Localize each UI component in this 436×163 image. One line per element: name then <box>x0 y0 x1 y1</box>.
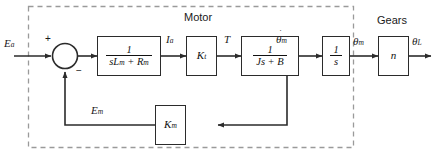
armature-numerator: 1 <box>106 44 152 55</box>
current-sub: a <box>170 36 174 45</box>
summing-junction-circle <box>53 44 78 69</box>
position-sub: m <box>358 38 363 47</box>
armature-den-base: sL <box>109 56 119 67</box>
back-emf-sub: m <box>98 107 103 116</box>
kt-sub: t <box>204 52 206 61</box>
armature-den-sub2: m <box>143 58 148 67</box>
block-gear-ratio-label: n <box>391 50 397 62</box>
armature-denominator: sLm + Rm <box>106 55 152 67</box>
mechanical-numerator: 1 <box>253 44 287 55</box>
summing-minus-sign: − <box>76 66 82 76</box>
km-sub: m <box>171 121 176 130</box>
torque-base: T <box>224 33 230 45</box>
signal-label-speed: ˙θm <box>276 34 287 45</box>
mechanical-denominator: Js + B <box>253 55 287 67</box>
block-torque-constant[interactable]: Kt <box>186 36 217 76</box>
block-back-emf-constant[interactable]: Km <box>155 105 186 145</box>
signal-label-position: θm <box>353 36 364 47</box>
gears-group-label: Gears <box>377 15 407 26</box>
input-base: E <box>4 37 11 49</box>
integrator-numerator: 1 <box>330 44 341 55</box>
speed-sub: m <box>281 36 286 45</box>
speed-overdot: ˙ <box>279 29 282 38</box>
signal-label-torque: T <box>224 34 230 45</box>
signal-label-current: Ia <box>166 34 173 45</box>
block-integrator-expression: 1 s <box>330 44 341 68</box>
motor-boundary <box>29 7 354 148</box>
signal-label-back-emf: Em <box>91 105 103 116</box>
block-diagram-canvas: 1 sLm + Rm Kt 1 Js + B 1 s n Km Motor Ge… <box>0 0 436 163</box>
input-sub: a <box>11 40 15 49</box>
signal-label-input: Ea <box>4 38 14 49</box>
signal-label-load-position: θL <box>412 36 422 47</box>
block-mechanical-expression: 1 Js + B <box>253 44 287 68</box>
block-back-emf-label: Km <box>164 119 177 131</box>
block-armature[interactable]: 1 sLm + Rm <box>97 36 161 76</box>
block-gear-ratio[interactable]: n <box>378 36 409 76</box>
block-armature-expression: 1 sLm + Rm <box>106 44 152 68</box>
summing-plus-sign: + <box>45 34 51 44</box>
diagram-vectors <box>0 0 436 163</box>
armature-den-mid: + R <box>125 56 144 67</box>
block-integrator[interactable]: 1 s <box>322 36 350 76</box>
block-torque-constant-label: Kt <box>197 50 206 62</box>
back-emf-base: E <box>91 104 98 116</box>
integrator-denominator: s <box>330 55 341 67</box>
block-mechanical[interactable]: 1 Js + B <box>241 36 299 76</box>
load-position-sub: L <box>417 38 421 47</box>
motor-group-label: Motor <box>184 12 212 23</box>
